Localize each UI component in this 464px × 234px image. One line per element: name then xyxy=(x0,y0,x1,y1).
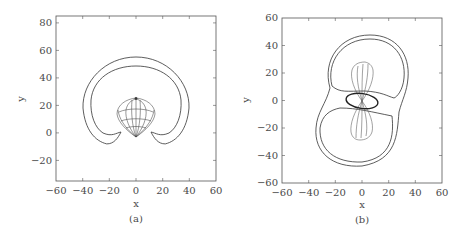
svg-text:−60: −60 xyxy=(45,185,66,196)
svg-text:−20: −20 xyxy=(31,155,52,166)
x-tick-labels-b: −60 −40 −20 0 20 40 60 xyxy=(271,187,448,198)
svg-text:20: 20 xyxy=(265,67,278,78)
chart-b: 60 40 20 0 −20 −40 −60 −60 −40 −20 0 20 … xyxy=(232,0,464,234)
svg-text:60: 60 xyxy=(436,187,449,198)
field-lines-b xyxy=(351,62,373,140)
svg-text:−20: −20 xyxy=(325,187,346,198)
svg-text:60: 60 xyxy=(210,185,223,196)
caption-a: (a) xyxy=(129,213,143,224)
svg-text:20: 20 xyxy=(382,187,395,198)
svg-text:−20: −20 xyxy=(99,185,120,196)
panel-b: 60 40 20 0 −20 −40 −60 −60 −40 −20 0 20 … xyxy=(232,0,464,234)
caption-b: (b) xyxy=(355,214,369,225)
chart-a: 80 60 40 20 0 −20 −60 −40 −20 0 20 40 60… xyxy=(0,0,232,234)
x-axis-label-b: x xyxy=(359,199,365,210)
panel-a: 80 60 40 20 0 −20 −60 −40 −20 0 20 40 60… xyxy=(0,0,232,234)
svg-text:0: 0 xyxy=(359,187,365,198)
svg-text:40: 40 xyxy=(39,72,52,83)
y-axis-label-a: y xyxy=(15,96,26,103)
x-tick-labels-a: −60 −40 −20 0 20 40 60 xyxy=(45,185,222,196)
fan-mesh-a xyxy=(117,97,155,137)
x-axis-label-a: x xyxy=(133,198,139,209)
svg-text:40: 40 xyxy=(265,40,278,51)
y-axis-label-b: y xyxy=(240,97,251,104)
svg-text:60: 60 xyxy=(39,45,52,56)
svg-text:−40: −40 xyxy=(257,150,278,161)
svg-text:40: 40 xyxy=(183,185,196,196)
svg-text:40: 40 xyxy=(409,187,422,198)
svg-text:20: 20 xyxy=(39,100,52,111)
y-ticks-a xyxy=(56,23,216,161)
svg-text:−40: −40 xyxy=(72,185,93,196)
svg-text:−60: −60 xyxy=(271,187,292,198)
svg-text:0: 0 xyxy=(272,95,278,106)
svg-text:80: 80 xyxy=(39,17,52,28)
svg-text:−20: −20 xyxy=(257,122,278,133)
svg-text:60: 60 xyxy=(265,12,278,23)
svg-text:0: 0 xyxy=(133,185,139,196)
svg-text:−40: −40 xyxy=(298,187,319,198)
svg-text:0: 0 xyxy=(46,127,52,138)
y-tick-labels-b: 60 40 20 0 −20 −40 −60 xyxy=(257,12,278,188)
svg-text:20: 20 xyxy=(156,185,169,196)
y-tick-labels-a: 80 60 40 20 0 −20 xyxy=(31,17,52,166)
